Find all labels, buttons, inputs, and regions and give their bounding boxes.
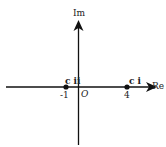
re-label: Re xyxy=(152,82,164,91)
point-c-ii-label: c ii xyxy=(65,77,80,86)
im-label: Im xyxy=(73,9,85,18)
point-c-i-label: c i xyxy=(129,77,141,86)
origin-label: O xyxy=(81,90,88,99)
tick-label-minus-1: -1 xyxy=(60,91,69,100)
complex-plane xyxy=(0,0,166,147)
tick-label-4: 4 xyxy=(124,91,130,100)
